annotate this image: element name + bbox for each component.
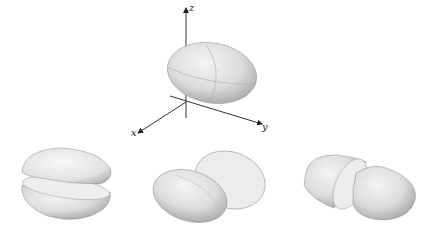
- split-horizontal-panel: [21, 148, 111, 219]
- x-axis: [138, 102, 186, 133]
- ellipsoid: [162, 36, 261, 111]
- figure-canvas: z x y: [0, 0, 439, 239]
- split-along-long-axis-panel: [146, 141, 273, 231]
- y-axis-label: y: [261, 121, 268, 132]
- z-axis-label: z: [188, 2, 195, 13]
- ellipsoid-whole-panel: z x y: [131, 2, 268, 138]
- split-across-long-axis-panel: [304, 154, 415, 220]
- x-axis-label: x: [131, 127, 137, 138]
